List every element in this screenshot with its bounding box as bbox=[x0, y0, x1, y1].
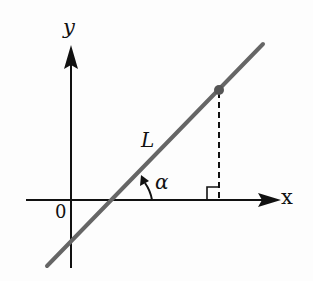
y-axis-label: y bbox=[63, 17, 75, 38]
angle-arc bbox=[140, 175, 152, 200]
point-on-line bbox=[214, 85, 224, 95]
right-angle-mark bbox=[207, 187, 219, 200]
angle-label: α bbox=[155, 172, 169, 192]
line-label: L bbox=[141, 130, 154, 150]
line-inclination-diagram: y x 0 L α bbox=[0, 0, 313, 281]
diagram-canvas bbox=[0, 0, 313, 281]
line-L bbox=[47, 44, 263, 266]
angle-arrow-icon bbox=[140, 175, 149, 186]
origin-label: 0 bbox=[55, 203, 66, 221]
x-axis-label: x bbox=[281, 187, 293, 208]
